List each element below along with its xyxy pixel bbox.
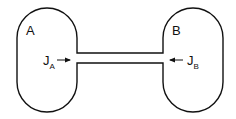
flux-a-subscript: A [50, 62, 55, 71]
arrow-icon [57, 58, 71, 63]
flux-b-label: JB [187, 54, 199, 67]
arrow-icon [169, 58, 183, 63]
flux-b-subscript: B [194, 62, 199, 71]
flux-a-symbol: J [43, 53, 50, 68]
compartment-b-label: B [172, 24, 181, 37]
compartment-a-label: A [26, 24, 35, 37]
flux-a-label: JA [43, 54, 55, 67]
flux-b-symbol: J [187, 53, 194, 68]
two-compartment-diagram [0, 0, 236, 119]
